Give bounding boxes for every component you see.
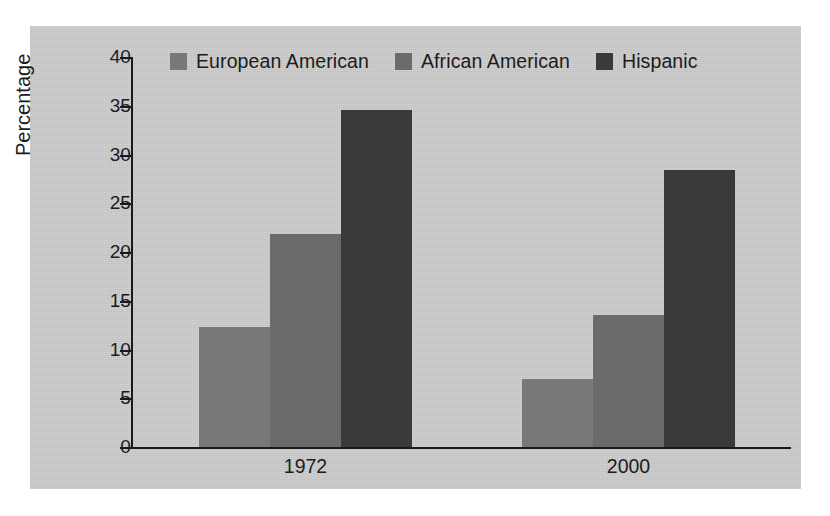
chart-panel: European AmericanAfrican AmericanHispani… xyxy=(30,26,801,489)
x-axis-tick-label: 1972 xyxy=(199,455,412,478)
y-axis-label: Percentage xyxy=(12,54,35,156)
legend-swatch-icon xyxy=(170,53,187,70)
legend-label: African American xyxy=(421,50,570,73)
y-axis-tick-label: 25 xyxy=(110,192,131,214)
chart-legend: European AmericanAfrican AmericanHispani… xyxy=(170,48,698,74)
y-axis-tick-label: 15 xyxy=(110,290,131,312)
bar xyxy=(593,315,664,447)
y-axis-tick-label: 5 xyxy=(120,387,131,409)
bar xyxy=(270,234,341,447)
legend-swatch-icon xyxy=(395,53,412,70)
legend-swatch-icon xyxy=(596,53,613,70)
legend-label: European American xyxy=(196,50,369,73)
y-axis-tick-label: 40 xyxy=(110,46,131,68)
plot-area: 0510152025303540 19722000 xyxy=(131,57,791,447)
legend-entry: African American xyxy=(395,50,570,73)
y-axis-tick-label: 35 xyxy=(110,95,131,117)
bar xyxy=(199,327,270,447)
y-axis-tick-label: 30 xyxy=(110,144,131,166)
y-axis-tick-label: 20 xyxy=(110,241,131,263)
legend-entry: Hispanic xyxy=(596,50,698,73)
legend-label: Hispanic xyxy=(622,50,698,73)
bar xyxy=(522,379,593,447)
x-axis-line xyxy=(131,447,791,449)
legend-entry: European American xyxy=(170,50,369,73)
x-axis-tick-label: 2000 xyxy=(522,455,735,478)
y-axis-tick-label: 0 xyxy=(120,436,131,458)
bar xyxy=(341,110,412,447)
y-axis-tick-label: 10 xyxy=(110,339,131,361)
bar xyxy=(664,170,735,447)
